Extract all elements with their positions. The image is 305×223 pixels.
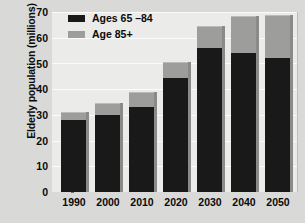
y-tick-label: 60 <box>36 32 48 44</box>
y-tick-label: 40 <box>36 83 48 95</box>
y-tick-label: 20 <box>36 135 48 147</box>
bar-segment-ages-65-84 <box>265 58 290 192</box>
y-tick-label: 50 <box>36 58 48 70</box>
chart-legend: Ages 65 –84 Age 85+ <box>68 11 188 43</box>
bar-shadow <box>290 15 293 192</box>
x-tick-label-2050: 2050 <box>254 195 302 209</box>
bar-segment-ages-65-84 <box>231 53 256 192</box>
bar-segment-ages-65-84 <box>163 78 188 192</box>
bar-shadow <box>188 62 191 192</box>
bar-2010 <box>129 92 154 192</box>
chart-figure: Elderly population (millions) 70 60 50 4… <box>0 0 305 223</box>
bar-segment-age-85-plus <box>95 103 120 115</box>
legend-item-ages-65-84: Ages 65 –84 <box>68 11 188 25</box>
bar-2050 <box>265 15 290 192</box>
y-tick-label: 70 <box>36 6 48 18</box>
bar-segment-ages-65-84 <box>61 120 86 192</box>
legend-label: Ages 65 –84 <box>92 12 153 24</box>
bar-2000 <box>95 103 120 192</box>
y-axis-ticks: 70 60 50 40 30 20 10 0 <box>22 0 48 223</box>
dark-swatch-icon <box>68 15 85 22</box>
x-axis-ticks: 1990 2000 2010 2020 2030 2040 2050 <box>52 195 297 211</box>
bar-segment-age-85-plus <box>163 62 188 78</box>
bar-2040 <box>231 16 256 192</box>
bar-segment-age-85-plus <box>129 92 154 107</box>
bar-shadow <box>86 112 89 192</box>
bar-shadow <box>256 16 259 192</box>
bar-2020 <box>163 62 188 192</box>
bar-2030 <box>197 26 222 192</box>
y-tick-label: 10 <box>36 160 48 172</box>
gray-swatch-icon <box>68 31 85 38</box>
bar-1990 <box>61 112 86 192</box>
legend-label: Age 85+ <box>92 28 133 40</box>
bar-segment-age-85-plus <box>231 16 256 53</box>
bar-segment-age-85-plus <box>265 15 290 58</box>
y-tick-label: 0 <box>42 186 48 198</box>
bar-shadow <box>154 92 157 192</box>
bar-segment-ages-65-84 <box>95 115 120 192</box>
bar-shadow <box>120 103 123 192</box>
bar-segment-age-85-plus <box>61 112 86 120</box>
y-tick-label: 30 <box>36 109 48 121</box>
legend-item-age-85-plus: Age 85+ <box>68 27 188 41</box>
bar-segment-ages-65-84 <box>197 48 222 192</box>
bar-segment-age-85-plus <box>197 26 222 48</box>
bar-segment-ages-65-84 <box>129 107 154 192</box>
bar-shadow <box>222 26 225 192</box>
y-tick-mark <box>71 192 74 193</box>
